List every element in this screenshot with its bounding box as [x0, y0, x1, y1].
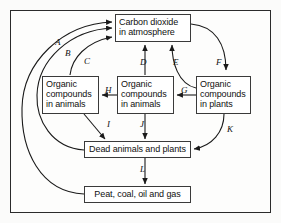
edge-label-h: H — [105, 85, 112, 95]
edge-label-f: F — [216, 57, 222, 67]
arrow-k — [194, 114, 224, 149]
node-carbon-dioxide-line-2: in atmosphere — [119, 28, 175, 38]
edge-label-j: J — [140, 119, 144, 129]
edge-label-e: E — [173, 57, 179, 67]
node-dead-line-1: Dead animals and plants — [89, 145, 186, 155]
arrow-c — [70, 37, 112, 75]
edge-label-k: K — [227, 124, 233, 134]
node-oca-center-line-3: in animals — [121, 100, 161, 110]
edge-label-g: G — [181, 85, 188, 95]
edge-label-i: I — [107, 119, 110, 129]
node-fossil-line-1: Peat, coal, oil and gas — [94, 190, 180, 200]
node-ocp-line-3: in plants — [200, 100, 233, 110]
node-organic-compounds-in-plants: Organic compounds in plants — [196, 76, 251, 114]
node-carbon-dioxide: Carbon dioxide in atmosphere — [115, 14, 191, 42]
diagram-page: Carbon dioxide in atmosphere Organic com… — [0, 0, 281, 223]
arrow-i — [84, 114, 105, 139]
node-peat-coal-oil-and-gas: Peat, coal, oil and gas — [84, 186, 191, 203]
edge-label-l: L — [140, 164, 145, 174]
node-organic-compounds-in-animals-center: Organic compounds in animals — [117, 76, 174, 114]
edge-label-d: D — [140, 57, 147, 67]
node-dead-animals-and-plants: Dead animals and plants — [84, 141, 191, 158]
node-organic-compounds-in-animals-left: Organic compounds in animals — [42, 76, 99, 114]
node-oca-left-line-3: in animals — [46, 100, 86, 110]
edge-label-b: B — [65, 48, 71, 58]
edge-label-c: C — [84, 56, 90, 66]
edge-label-a: A — [55, 37, 61, 47]
